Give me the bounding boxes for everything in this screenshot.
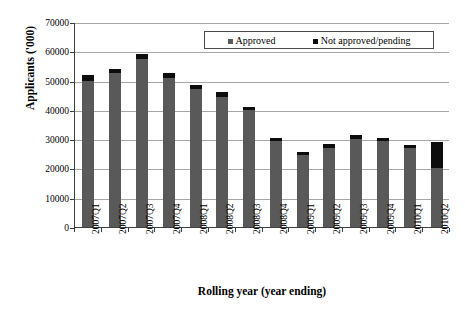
x-tick-mark — [74, 228, 75, 232]
x-tick-label: 2008Q1 — [199, 188, 209, 234]
x-tick-label: 2010Q2 — [440, 188, 450, 234]
bar-segment-not-approved — [163, 73, 175, 77]
legend-swatch-approved-icon — [228, 39, 233, 44]
y-tick-label: 10000 — [9, 194, 69, 204]
x-tick-label: 2009Q3 — [359, 188, 369, 234]
x-tick-label: 2010Q1 — [413, 188, 423, 234]
bar-segment-not-approved — [243, 107, 255, 110]
x-tick-label: 2009Q1 — [306, 188, 316, 234]
x-tick-label: 2008Q4 — [279, 188, 289, 234]
x-tick-label: 2007Q1 — [91, 188, 101, 234]
y-tick-mark — [70, 199, 74, 200]
y-tick-mark — [70, 82, 74, 83]
bar-segment-not-approved — [270, 138, 282, 141]
chart-legend: Approved Not approved/pending — [204, 31, 434, 49]
bar-segment-not-approved — [190, 85, 202, 89]
x-tick-label: 2007Q3 — [145, 188, 155, 234]
bar-segment-not-approved — [136, 54, 148, 58]
y-tick-label: 50000 — [9, 77, 69, 87]
y-tick-label: 0 — [9, 223, 69, 233]
legend-label-approved: Approved — [236, 35, 276, 46]
y-tick-label: 20000 — [9, 164, 69, 174]
bar-segment-not-approved — [109, 69, 121, 73]
y-tick-label: 40000 — [9, 106, 69, 116]
legend-label-not-approved: Not approved/pending — [321, 35, 411, 46]
bar-segment-not-approved — [350, 135, 362, 139]
x-axis-title: Rolling year (year ending) — [74, 285, 450, 297]
x-tick-label: 2007Q4 — [172, 188, 182, 234]
bar-segment-not-approved — [216, 92, 228, 96]
y-tick-label: 30000 — [9, 135, 69, 145]
legend-item-approved: Approved — [228, 35, 276, 46]
y-tick-mark — [70, 52, 74, 53]
y-tick-label: 60000 — [9, 47, 69, 57]
bar-segment-not-approved — [323, 144, 335, 148]
bar-chart: Applicants ('000) 0100002000030000400005… — [0, 0, 465, 309]
y-tick-mark — [70, 23, 74, 24]
x-tick-label: 2009Q4 — [386, 188, 396, 234]
bar-segment-not-approved — [404, 145, 416, 148]
y-tick-mark — [70, 169, 74, 170]
x-tick-label: 2008Q2 — [225, 188, 235, 234]
legend-swatch-not-approved-icon — [313, 39, 318, 44]
bar-segment-not-approved — [377, 138, 389, 141]
x-tick-label: 2008Q3 — [252, 188, 262, 234]
x-tick-label: 2007Q2 — [118, 188, 128, 234]
bar-segment-not-approved — [431, 142, 443, 168]
y-tick-mark — [70, 111, 74, 112]
x-tick-label: 2009Q2 — [332, 188, 342, 234]
y-tick-mark — [70, 140, 74, 141]
legend-item-not-approved: Not approved/pending — [313, 35, 411, 46]
bar-segment-not-approved — [82, 75, 94, 81]
y-tick-label: 70000 — [9, 18, 69, 28]
bar-segment-not-approved — [297, 152, 309, 155]
